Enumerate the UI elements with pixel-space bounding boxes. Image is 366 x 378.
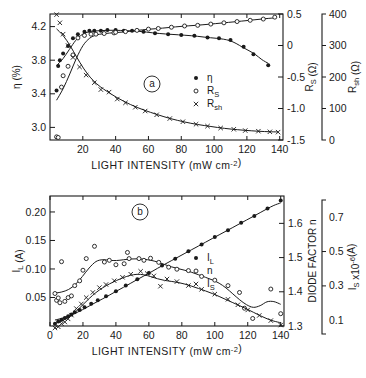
data-point-η — [266, 63, 270, 67]
data-point-R_S — [123, 30, 127, 34]
data-point-η — [179, 33, 183, 37]
legend-label-R_S: RS — [207, 85, 219, 99]
data-point-I_L — [239, 221, 243, 225]
y-tick-label-left: 0.20 — [26, 206, 47, 218]
data-point-n — [102, 260, 106, 264]
y-tick-label-right: 1.3 — [288, 320, 303, 332]
x-tick-label: 20 — [77, 143, 89, 155]
y-tick-label-left: 0.05 — [26, 291, 47, 303]
data-point-R_sh — [58, 21, 62, 25]
data-point-η — [56, 64, 60, 68]
x-tick-label: 100 — [205, 143, 223, 155]
y-tick-label-right: 1.4 — [288, 285, 303, 297]
x-tick-label: 40 — [110, 143, 122, 155]
y-axis-label-detached-text: Rsh (Ω) — [347, 61, 361, 93]
data-point-I_L — [226, 228, 230, 232]
data-point-R_sh — [54, 12, 58, 16]
data-point-n — [60, 260, 64, 264]
data-point-R_sh — [84, 73, 88, 77]
data-point-I_L — [252, 214, 256, 218]
x-tick-label: 120 — [239, 329, 257, 341]
data-point-R_S — [102, 32, 106, 36]
data-point-R_S — [114, 30, 118, 34]
data-point-η — [105, 28, 109, 32]
data-point-n — [92, 244, 96, 248]
x-axis-label: LIGHT INTENSITY (mW cm-2) — [91, 156, 241, 171]
data-point-n — [269, 287, 273, 291]
data-point-n — [226, 284, 230, 288]
x-tick-label: 20 — [77, 329, 89, 341]
data-point-I_S — [91, 290, 95, 294]
data-point-R_S — [59, 85, 63, 89]
data-point-I_L — [213, 235, 217, 239]
data-point-n — [73, 284, 77, 288]
x-tick-label: 80 — [176, 329, 188, 341]
detached-axis-spine — [322, 200, 326, 334]
data-point-n — [279, 312, 283, 316]
x-tick-label: 60 — [143, 143, 155, 155]
data-point-R_S — [56, 135, 60, 139]
data-point-n — [125, 250, 129, 254]
data-point-I_L — [186, 249, 190, 253]
legend-entry-R_S: RS — [194, 85, 219, 99]
far-tick-label: 0.3 — [329, 279, 344, 291]
data-point-R_S — [135, 28, 139, 32]
far-tick-label: 100 — [329, 102, 347, 114]
data-point-I_S — [79, 302, 83, 306]
far-tick-label: 400 — [329, 8, 347, 20]
data-point-n — [56, 296, 60, 300]
series-I_L — [53, 199, 283, 326]
y-tick-label-right: -1.5 — [287, 134, 305, 146]
data-point-R_S — [146, 27, 150, 31]
data-point-R_S — [89, 32, 93, 36]
y-axis-label-detached: IS x10-6(A) — [346, 244, 360, 291]
data-point-legend-η — [194, 76, 198, 80]
far-tick-label: 200 — [329, 71, 347, 83]
data-point-R_S — [156, 26, 160, 30]
y-tick-label-right: 0 — [287, 39, 293, 51]
data-point-η — [192, 34, 196, 38]
y-tick-label-right: -0.5 — [287, 71, 305, 83]
data-point-n — [81, 268, 85, 272]
far-tick-label: 300 — [329, 39, 347, 51]
series-η — [55, 28, 271, 92]
data-point-R_sh — [99, 87, 103, 91]
data-point-n — [53, 292, 57, 296]
y-axis-label-right-text: RS (Ω) — [304, 62, 318, 91]
data-point-n — [78, 279, 82, 283]
data-point-n — [127, 257, 131, 261]
y-axis-label-left-text: IL (A) — [11, 249, 25, 272]
data-point-η — [58, 58, 62, 62]
data-point-η — [251, 52, 255, 56]
trend-curve-I_L — [55, 203, 281, 320]
data-point-n — [157, 260, 161, 264]
y-tick-label-right: 0.5 — [287, 8, 302, 20]
panel-b-plot: 0204060801001201400.050.100.150.201.31.4… — [0, 186, 366, 378]
data-point-I_L — [104, 294, 108, 298]
data-point-n — [69, 294, 73, 298]
data-point-R_S — [261, 17, 265, 21]
data-point-R_sh — [77, 65, 81, 69]
data-point-I_L — [96, 298, 100, 302]
data-point-R_S — [94, 32, 98, 36]
data-point-R_S — [66, 64, 70, 68]
data-point-n — [142, 258, 146, 262]
data-point-legend-R_S — [194, 89, 198, 93]
y-tick-label-right: 1.5 — [288, 251, 303, 263]
trend-curve-I_S — [55, 274, 281, 323]
data-point-R_S — [183, 24, 187, 28]
data-point-legend-R_sh — [194, 102, 198, 106]
data-point-I_S — [158, 284, 162, 288]
data-point-R_S — [273, 15, 277, 19]
x-tick-label: 80 — [175, 143, 187, 155]
data-point-n — [175, 267, 179, 271]
trend-curve-R_sh — [57, 29, 279, 132]
x-tick-label: 0 — [47, 329, 53, 341]
data-point-legend-I_S — [194, 282, 198, 286]
data-point-R_S — [61, 74, 65, 78]
data-point-η — [228, 38, 232, 42]
y-tick-label-left: 3.0 — [31, 121, 46, 133]
x-axis-label: LIGHT INTENSITY (mW cm-2) — [92, 342, 242, 357]
x-tick-label: 140 — [272, 329, 290, 341]
data-point-I_L — [89, 302, 93, 306]
